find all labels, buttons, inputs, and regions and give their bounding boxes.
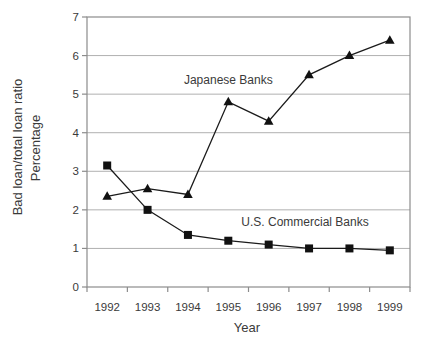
y-axis-title-line2: Percentage — [28, 115, 43, 182]
y-tick-label: 1 — [73, 242, 79, 254]
y-tick-label: 4 — [73, 127, 80, 139]
x-tick-label: 1994 — [175, 301, 201, 313]
plot-border — [87, 17, 410, 287]
series-japanese-banks — [102, 35, 394, 200]
series-u-s-commercial-banks — [103, 162, 394, 255]
square-marker — [305, 244, 313, 252]
square-marker — [184, 231, 192, 239]
square-marker — [345, 244, 353, 252]
x-tick-label: 1995 — [216, 301, 242, 313]
y-tick-label: 5 — [73, 88, 79, 100]
series-label: Japanese Banks — [184, 73, 273, 87]
x-tick-label: 1992 — [94, 301, 120, 313]
y-tick-label: 3 — [73, 165, 79, 177]
frame-layer — [87, 17, 410, 287]
series-label: U.S. Commercial Banks — [241, 215, 368, 229]
x-tick-label: 1998 — [337, 301, 363, 313]
x-axis-title: Year — [234, 320, 261, 335]
square-marker — [386, 246, 394, 254]
y-axis-title-line1: Bad loan/total loan ratio — [10, 79, 25, 216]
triangle-marker — [385, 35, 395, 44]
line-chart: 0123456719921993199419951996199719981999… — [0, 0, 422, 345]
x-tick-label: 1993 — [135, 301, 161, 313]
square-marker — [224, 237, 232, 245]
y-tick-label: 6 — [73, 50, 79, 62]
tick-layer — [82, 17, 410, 292]
triangle-marker — [304, 70, 314, 79]
triangle-marker — [143, 184, 153, 193]
chart-figure: 0123456719921993199419951996199719981999… — [0, 0, 422, 345]
x-tick-label: 1997 — [296, 301, 322, 313]
y-tick-label: 0 — [73, 281, 79, 293]
x-tick-label: 1999 — [377, 301, 403, 313]
x-tick-label: 1996 — [256, 301, 282, 313]
square-marker — [265, 241, 273, 249]
square-marker — [144, 206, 152, 214]
triangle-marker — [224, 97, 234, 106]
square-marker — [103, 162, 111, 170]
y-tick-label: 2 — [73, 204, 79, 216]
y-tick-label: 7 — [73, 11, 79, 23]
series-line — [107, 40, 390, 196]
label-layer: 0123456719921993199419951996199719981999… — [73, 11, 403, 313]
